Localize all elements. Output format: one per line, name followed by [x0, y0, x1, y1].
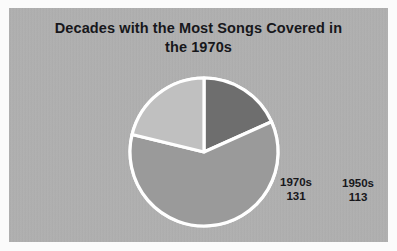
- pie-label-1970s: 1970s 131: [268, 175, 324, 203]
- pie-label-1970s-value: 131: [268, 189, 324, 203]
- chart-screenshot: Decades with the Most Songs Covered in t…: [0, 0, 397, 251]
- pie-slices: [130, 78, 278, 226]
- chart-title-line-1: Decades with the Most Songs Covered in: [9, 19, 388, 38]
- chart-title: Decades with the Most Songs Covered in t…: [9, 19, 388, 56]
- pie-label-1950s: 1950s 113: [330, 176, 386, 204]
- pie-label-1950s-name: 1950s: [330, 176, 386, 190]
- chart-panel: Decades with the Most Songs Covered in t…: [9, 8, 388, 242]
- pie-label-1970s-name: 1970s: [268, 175, 324, 189]
- pie-chart: 1950s 113 1960s 374 1970s 131: [128, 76, 280, 228]
- image-frame: Decades with the Most Songs Covered in t…: [0, 0, 397, 251]
- pie-svg: [128, 76, 280, 228]
- pie-label-1950s-value: 113: [330, 190, 386, 204]
- chart-title-line-2: the 1970s: [9, 38, 388, 57]
